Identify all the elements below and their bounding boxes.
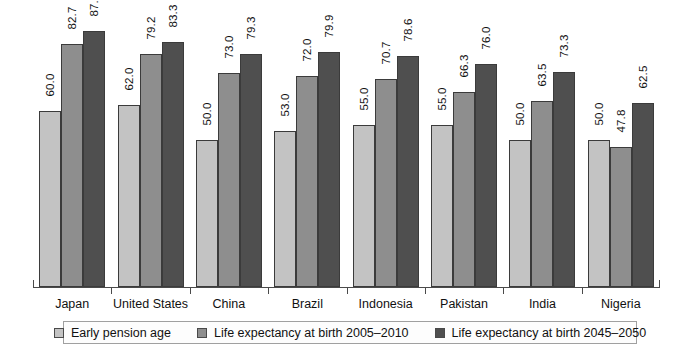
bar-item[interactable]: 50.0 xyxy=(196,8,218,287)
bar-group-bars: 55.070.778.6 xyxy=(347,8,425,287)
bar[interactable] xyxy=(196,140,218,287)
category-label-brazil: Brazil xyxy=(268,297,346,311)
bar-group-bars: 55.066.376.0 xyxy=(425,8,503,287)
bar-group-bars: 60.082.787.2 xyxy=(33,8,111,287)
bar[interactable] xyxy=(318,52,340,287)
legend-label: Life expectancy at birth 2045–2050 xyxy=(452,326,647,340)
bar[interactable] xyxy=(588,140,610,287)
bar-group-bars: 50.073.079.3 xyxy=(190,8,268,287)
bar-item[interactable]: 73.0 xyxy=(218,8,240,287)
bar-item[interactable]: 79.9 xyxy=(318,8,340,287)
bar-group: 62.079.283.3 xyxy=(111,8,189,287)
bar-item[interactable]: 55.0 xyxy=(431,8,453,287)
bar-item[interactable]: 87.2 xyxy=(83,8,105,287)
bar-value-label: 63.5 xyxy=(536,55,548,95)
bar[interactable] xyxy=(162,42,184,287)
bar-item[interactable]: 47.8 xyxy=(610,8,632,287)
x-axis-tick xyxy=(582,288,583,294)
x-axis-tick xyxy=(503,288,504,294)
bar-value-label: 79.9 xyxy=(323,6,335,46)
bar-group: 60.082.787.2 xyxy=(33,8,111,287)
x-axis-tick xyxy=(347,288,348,294)
category-label-pakistan: Pakistan xyxy=(425,297,503,311)
bar-item[interactable]: 63.5 xyxy=(531,8,553,287)
bar[interactable] xyxy=(274,131,296,287)
bar-item[interactable]: 62.5 xyxy=(632,8,654,287)
bar-value-label: 79.2 xyxy=(145,8,157,48)
bar-item[interactable]: 53.0 xyxy=(274,8,296,287)
bar-value-label: 82.7 xyxy=(66,0,78,38)
bar[interactable] xyxy=(610,147,632,287)
bar-item[interactable]: 76.0 xyxy=(475,8,497,287)
bar-item[interactable]: 50.0 xyxy=(509,8,531,287)
bar[interactable] xyxy=(632,103,654,287)
bar-item[interactable]: 70.7 xyxy=(375,8,397,287)
bar[interactable] xyxy=(353,125,375,287)
bar[interactable] xyxy=(553,72,575,287)
bar-value-label: 50.0 xyxy=(514,94,526,134)
bar[interactable] xyxy=(431,125,453,287)
bar[interactable] xyxy=(375,79,397,287)
bar-group-bars: 62.079.283.3 xyxy=(111,8,189,287)
bar-item[interactable]: 78.6 xyxy=(397,8,419,287)
bar-item[interactable]: 55.0 xyxy=(353,8,375,287)
bar-value-label: 53.0 xyxy=(279,85,291,125)
bar-value-label: 66.3 xyxy=(458,46,470,86)
bar[interactable] xyxy=(397,56,419,287)
bar-value-label: 72.0 xyxy=(301,30,313,70)
bar-item[interactable]: 60.0 xyxy=(39,8,61,287)
bar-value-label: 55.0 xyxy=(436,79,448,119)
bar-item[interactable]: 83.3 xyxy=(162,8,184,287)
bar-item[interactable]: 82.7 xyxy=(61,8,83,287)
bar-group: 50.047.862.5 xyxy=(582,8,660,287)
bar[interactable] xyxy=(118,105,140,287)
legend-entry[interactable]: Life expectancy at birth 2045–2050 xyxy=(435,326,647,340)
legend-label: Life expectancy at birth 2005–2010 xyxy=(214,326,409,340)
bar-value-label: 83.3 xyxy=(167,0,179,36)
bar-value-label: 70.7 xyxy=(380,33,392,73)
bar[interactable] xyxy=(240,54,262,287)
x-axis-tick xyxy=(111,288,112,294)
bar-item[interactable]: 79.2 xyxy=(140,8,162,287)
bar[interactable] xyxy=(218,73,240,287)
bar-value-label: 62.0 xyxy=(123,59,135,99)
category-label-indonesia: Indonesia xyxy=(347,297,425,311)
x-axis-tick xyxy=(190,288,191,294)
legend-entry[interactable]: Life expectancy at birth 2005–2010 xyxy=(197,326,409,340)
bar-value-label: 55.0 xyxy=(358,79,370,119)
bar-value-label: 73.0 xyxy=(223,27,235,67)
bar-value-label: 62.5 xyxy=(637,57,649,97)
bar-value-label: 79.3 xyxy=(245,8,257,48)
bar-group: 53.072.079.9 xyxy=(268,8,346,287)
chart-legend: Early pension ageLife expectancy at birt… xyxy=(63,321,637,344)
legend-swatch-icon xyxy=(54,328,64,338)
bar-item[interactable]: 72.0 xyxy=(296,8,318,287)
bar[interactable] xyxy=(296,76,318,287)
bar-value-label: 87.2 xyxy=(88,0,100,25)
bar-value-label: 76.0 xyxy=(480,18,492,58)
bar-group: 55.070.778.6 xyxy=(347,8,425,287)
bar[interactable] xyxy=(475,64,497,287)
category-label-japan: Japan xyxy=(33,297,111,311)
bar[interactable] xyxy=(140,54,162,287)
bar-group-bars: 50.047.862.5 xyxy=(582,8,660,287)
bar-item[interactable]: 73.3 xyxy=(553,8,575,287)
bar-item[interactable]: 50.0 xyxy=(588,8,610,287)
bar-group: 55.066.376.0 xyxy=(425,8,503,287)
bar-item[interactable]: 62.0 xyxy=(118,8,140,287)
bar[interactable] xyxy=(61,44,83,287)
bar-item[interactable]: 66.3 xyxy=(453,8,475,287)
bar[interactable] xyxy=(453,92,475,287)
x-axis-tick xyxy=(268,288,269,294)
legend-entry[interactable]: Early pension age xyxy=(54,326,171,340)
bar-value-label: 78.6 xyxy=(402,10,414,50)
bar[interactable] xyxy=(509,140,531,287)
bar[interactable] xyxy=(83,31,105,287)
category-label-india: India xyxy=(503,297,581,311)
bar-value-label: 50.0 xyxy=(201,94,213,134)
bar[interactable] xyxy=(39,111,61,287)
bar-item[interactable]: 79.3 xyxy=(240,8,262,287)
category-label-united-states: United States xyxy=(111,297,189,311)
bar[interactable] xyxy=(531,101,553,287)
category-label-china: China xyxy=(190,297,268,311)
